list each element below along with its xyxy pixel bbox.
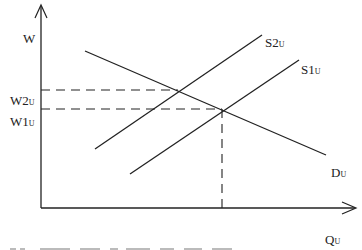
y-axis-label: W <box>23 31 36 46</box>
s1-label: S1U <box>301 62 321 77</box>
supply-curve-s1 <box>130 60 299 174</box>
demand-label: DU <box>331 165 346 180</box>
supply-demand-diagram: W W2U W1U S2U S1U DU QU <box>0 0 362 250</box>
supply-curve-s2 <box>95 35 262 149</box>
w1-label: W1U <box>10 114 35 129</box>
w2-label: W2U <box>10 93 35 108</box>
s2-label: S2U <box>265 35 285 50</box>
x-axis-label: QU <box>325 232 340 247</box>
